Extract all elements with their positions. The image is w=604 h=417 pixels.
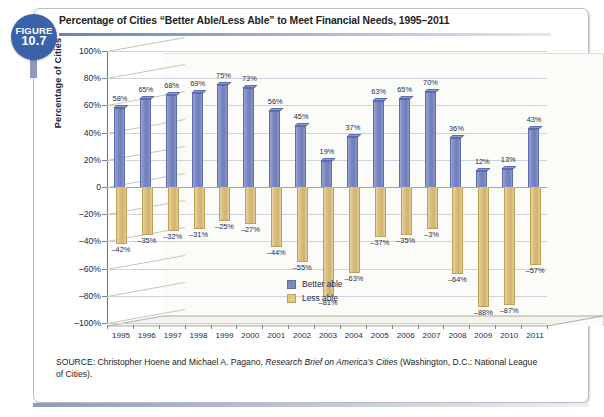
bar-value-label: 56% <box>262 97 288 106</box>
gridline <box>107 78 547 79</box>
y-axis-tick-mark <box>102 187 107 188</box>
bar-value-label: 45% <box>288 112 314 121</box>
y-axis-tick-mark <box>102 78 107 79</box>
bar-less-able <box>219 187 230 221</box>
plot-area: 100%80%60%40%20%0–20%–40%–60%–80%–100% 5… <box>107 51 547 323</box>
figure-title: Percentage of Cities “Better Able/Less A… <box>59 15 539 26</box>
y-axis-tick-label: 100% <box>63 46 101 56</box>
bar-better-able <box>269 111 280 187</box>
bar-top-cap <box>398 96 413 99</box>
bar-value-label: –3% <box>419 230 445 239</box>
bar-less-able <box>349 187 360 273</box>
bar-top-cap <box>165 92 180 95</box>
bar-value-label: 12% <box>469 157 495 166</box>
bar-value-label: –35% <box>393 236 419 245</box>
bar-value-label: 70% <box>418 78 444 87</box>
bottom-divider <box>33 403 589 407</box>
y-axis-tick-mark <box>102 323 107 324</box>
bar-value-label: –25% <box>211 222 237 231</box>
legend-label: Less able <box>302 293 338 303</box>
gridline <box>107 323 547 324</box>
bar-better-able <box>425 92 436 187</box>
x-axis-tick-mark <box>288 325 289 329</box>
x-axis-tick-mark <box>340 325 341 329</box>
bar-value-label: 43% <box>521 115 547 124</box>
bar-better-able <box>528 129 539 187</box>
bar-better-able <box>321 161 332 187</box>
bar-value-label: –31% <box>186 230 212 239</box>
bar-top-cap <box>528 126 543 129</box>
bar-less-able <box>427 187 438 229</box>
bar-top-cap <box>139 96 154 99</box>
bar-better-able <box>243 88 254 187</box>
badge-connector <box>30 58 37 78</box>
bar-value-label: –42% <box>108 245 134 254</box>
bar-less-able <box>297 187 308 262</box>
bar-value-label: –44% <box>263 248 289 257</box>
bar-better-able <box>347 137 358 187</box>
x-axis-tick-mark <box>443 325 444 329</box>
bar-value-label: 65% <box>133 85 159 94</box>
bar-value-label: –32% <box>160 232 186 241</box>
y-axis-tick-mark <box>102 269 107 270</box>
y-axis-tick-label: 0 <box>63 182 101 192</box>
bar-less-able <box>271 187 282 247</box>
x-axis-tick-mark <box>547 325 548 329</box>
plot-floor <box>107 315 604 327</box>
x-axis-tick-mark <box>159 325 160 329</box>
figure-badge-number: 10.7 <box>21 35 46 48</box>
x-axis-tick-mark <box>133 325 134 329</box>
bar-less-able <box>478 187 489 307</box>
legend-swatch-icon <box>287 294 296 303</box>
x-axis-tick-mark <box>469 325 470 329</box>
x-axis-tick-mark <box>366 325 367 329</box>
y-axis-tick-label: –60% <box>63 264 101 274</box>
y-axis-tick-mark <box>102 133 107 134</box>
y-axis-tick-mark <box>102 241 107 242</box>
chart-area: Percentage of Cities 100%80%60%40%20%0–2… <box>57 43 553 343</box>
bar-value-label: 75% <box>210 71 236 80</box>
y-axis-tick-mark <box>102 51 107 52</box>
source-prefix: SOURCE: Christopher Hoene and Michael A.… <box>56 357 265 367</box>
bar-value-label: –64% <box>444 275 470 284</box>
bar-value-label: –88% <box>470 308 496 317</box>
bar-better-able <box>166 95 177 187</box>
bar-less-able <box>116 187 127 244</box>
bar-value-label: –37% <box>367 238 393 247</box>
y-axis-tick-label: –40% <box>63 236 101 246</box>
bar-top-cap <box>113 105 128 108</box>
bar-value-label: 19% <box>314 147 340 156</box>
title-divider <box>59 33 551 36</box>
figure-badge: FIGURE 10.7 <box>11 14 57 60</box>
y-axis-tick-mark <box>102 214 107 215</box>
y-axis-tick-mark <box>102 105 107 106</box>
x-axis-tick-mark <box>314 325 315 329</box>
bar-value-label: 69% <box>185 79 211 88</box>
bar-value-label: –35% <box>134 236 160 245</box>
x-axis-tick-mark <box>262 325 263 329</box>
x-axis-tick-mark <box>392 325 393 329</box>
legend-item: Better able <box>287 279 343 289</box>
bar-top-cap <box>424 89 439 92</box>
bar-better-able <box>192 93 203 187</box>
legend-label: Better able <box>302 279 343 289</box>
bar-value-label: 63% <box>366 87 392 96</box>
bar-value-label: 68% <box>159 81 185 90</box>
x-axis-tick-mark <box>211 325 212 329</box>
bar-value-label: 13% <box>495 155 521 164</box>
x-axis-tick-mark <box>107 325 108 329</box>
legend: Better ableLess able <box>287 279 343 307</box>
bar-value-label: 36% <box>443 124 469 133</box>
gridline <box>107 51 547 52</box>
x-axis-tick-mark <box>185 325 186 329</box>
bar-better-able <box>140 99 151 187</box>
bar-value-label: 58% <box>107 94 133 103</box>
y-axis-tick-label: 20% <box>63 155 101 165</box>
x-axis-tick-mark <box>521 325 522 329</box>
bar-better-able <box>450 138 461 187</box>
y-axis-tick-label: –100% <box>63 318 101 328</box>
x-axis-tick-mark <box>495 325 496 329</box>
bar-value-label: 65% <box>392 85 418 94</box>
x-axis-tick-label: 2011 <box>520 331 550 340</box>
